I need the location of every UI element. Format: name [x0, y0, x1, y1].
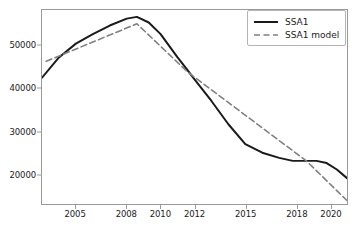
x-tick-mark [195, 205, 196, 209]
chart-figure: 20000300004000050000 2005200820102012201… [0, 0, 357, 227]
x-tick-label: 2010 [150, 209, 171, 219]
x-tick-mark [246, 205, 247, 209]
series-line-1 [46, 24, 347, 201]
legend-entry-ssa1: SSA1 [253, 15, 339, 28]
y-axis-tick-labels: 20000300004000050000 [0, 0, 36, 227]
x-tick-mark [126, 205, 127, 209]
x-tick-label: 2012 [184, 209, 205, 219]
y-tick-mark [37, 88, 41, 89]
y-tick-label: 40000 [9, 83, 36, 93]
legend-swatch-solid [253, 17, 279, 27]
y-tick-label: 20000 [9, 170, 36, 180]
x-tick-label: 2015 [235, 209, 256, 219]
legend-label-ssa1: SSA1 [285, 17, 308, 27]
y-tick-label: 30000 [9, 127, 36, 137]
legend-label-ssa1-model: SSA1 model [285, 30, 339, 40]
chart-legend: SSA1 SSA1 model [247, 10, 346, 46]
x-tick-label: 2020 [320, 209, 341, 219]
y-tick-mark [37, 44, 41, 45]
legend-swatch-dashed [253, 30, 279, 40]
x-tick-mark [331, 205, 332, 209]
x-tick-mark [75, 205, 76, 209]
x-tick-mark [160, 205, 161, 209]
x-tick-label: 2008 [116, 209, 137, 219]
x-tick-mark [297, 205, 298, 209]
legend-entry-ssa1-model: SSA1 model [253, 28, 339, 41]
y-tick-mark [37, 131, 41, 132]
x-tick-label: 2018 [286, 209, 307, 219]
y-tick-label: 50000 [9, 40, 36, 50]
x-tick-label: 2005 [64, 209, 85, 219]
y-tick-mark [37, 175, 41, 176]
